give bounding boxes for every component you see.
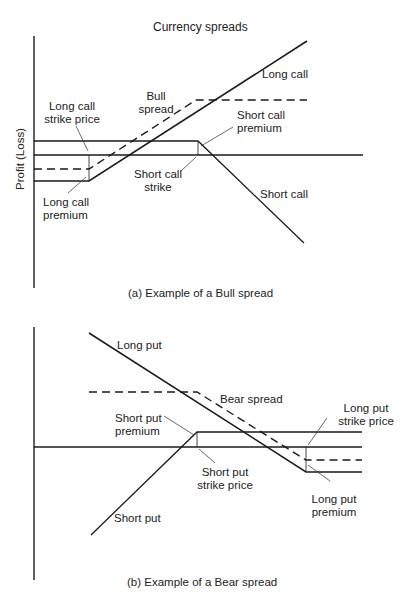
label-long-call-strike-line1: Long call — [44, 100, 100, 113]
figure-title: Currency spreads — [153, 20, 248, 34]
label-short-call-strike: Short call strike — [128, 168, 188, 194]
label-short-call: Short call — [260, 188, 308, 201]
label-bull-spread-line2: spread — [138, 103, 174, 116]
label-long-call-strike: Long call strike price — [44, 100, 100, 126]
panel-b-graph — [34, 327, 362, 580]
label-long-call-premium-line2: premium — [43, 209, 89, 222]
label-bull-spread: Bull spread — [138, 90, 174, 116]
label-long-call-premium-line1: Long call — [43, 196, 89, 209]
label-long-call-premium: Long call premium — [43, 196, 89, 222]
label-short-call-strike-line2: strike — [128, 181, 188, 194]
label-long-put-premium-line2: premium — [306, 506, 362, 519]
label-short-put-strike-line2: strike price — [194, 479, 256, 492]
label-bull-spread-line1: Bull — [138, 90, 174, 103]
label-long-put-premium-line1: Long put — [306, 493, 362, 506]
caption-b: (b) Example of a Bear spread — [127, 576, 277, 588]
leader-long-call-strike — [76, 126, 88, 151]
label-long-put-strike: Long put strike price — [334, 402, 398, 428]
leader-long-call-premium — [68, 177, 86, 193]
label-short-call-premium-line1: Short call — [237, 109, 285, 122]
y-axis-label: Profit (Loss) — [14, 128, 26, 190]
label-long-call-strike-line2: strike price — [44, 113, 100, 126]
leader-long-put-premium — [308, 465, 330, 481]
panel-a-graph — [34, 36, 363, 288]
label-short-call-premium: Short call premium — [237, 109, 285, 135]
leader-short-put-strike — [199, 449, 215, 463]
label-long-put-strike-line1: Long put — [334, 402, 398, 415]
label-long-put: Long put — [117, 339, 162, 352]
label-short-put-premium-line1: Short put — [115, 412, 162, 425]
label-long-call: Long call — [262, 68, 308, 81]
label-short-put-strike-line1: Short put — [194, 466, 256, 479]
label-short-put-strike: Short put strike price — [194, 466, 256, 492]
label-short-put-premium: Short put premium — [115, 412, 162, 438]
leader-short-call-premium — [201, 127, 233, 146]
label-short-call-premium-line2: premium — [237, 122, 285, 135]
label-bear-spread: Bear spread — [220, 393, 283, 406]
label-long-put-premium: Long put premium — [306, 493, 362, 519]
leader-short-put-premium — [164, 416, 194, 435]
label-short-call-strike-line1: Short call — [128, 168, 188, 181]
label-short-put-premium-line2: premium — [115, 425, 162, 438]
label-short-put: Short put — [114, 512, 161, 525]
label-long-put-strike-line2: strike price — [334, 415, 398, 428]
caption-a: (a) Example of a Bull spread — [128, 287, 273, 299]
